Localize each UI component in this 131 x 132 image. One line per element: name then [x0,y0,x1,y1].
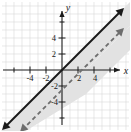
y-axis-label: y [65,2,71,13]
x-tick-label-2: 2 [77,73,81,83]
x-axis-label: x [123,65,129,76]
x-tick-label-minus4: -4 [26,73,34,83]
linear-inequality-graph: -4 -2 2 4 4 2 -2 -4 x y [0,0,131,132]
y-tick-label-2: 2 [52,49,56,59]
y-tick-label-minus4: -4 [51,97,59,107]
y-tick-label-minus2: -2 [51,81,58,91]
x-tick-label-minus2: -2 [42,73,49,83]
coordinate-plane: -4 -2 2 4 4 2 -2 -4 x y [0,0,131,132]
